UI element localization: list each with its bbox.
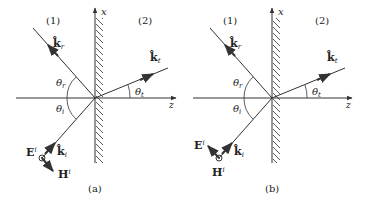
transmitted-k-arrow: [140, 74, 153, 80]
theta-r-arc: [244, 77, 253, 98]
panel-b: x z (1) (2) k̂r k̂t k̂i θr θi θt Hi Ei (…: [193, 6, 352, 194]
theta-t-arc: [305, 85, 307, 98]
z-axis-label: z: [345, 100, 351, 110]
theta-r-arc: [67, 77, 76, 98]
transmitted-k-arrow: [317, 74, 330, 80]
theta-i-label: θi: [56, 103, 64, 116]
k-r-label: k̂r: [52, 36, 64, 51]
transmitted-ray: [272, 68, 345, 98]
k-i-label: k̂i: [56, 144, 66, 159]
region-1-label: (1): [46, 15, 60, 26]
region-2-label: (2): [315, 15, 329, 26]
interface-hatching: [273, 18, 280, 163]
theta-i-arc: [67, 98, 76, 119]
theta-t-label: θt: [312, 86, 321, 99]
theta-i-arc: [244, 98, 253, 119]
H-label: Hi: [58, 168, 71, 181]
caption-b: (b): [265, 183, 279, 194]
incident-k-arrow: [222, 143, 232, 154]
x-axis-label: x: [101, 6, 107, 17]
reflection-refraction-diagram: x z (1) (2) k̂r k̂t k̂i θr θi θt Ei Hi (…: [0, 0, 365, 210]
h-field-arrow: [42, 158, 53, 171]
k-i-label: k̂i: [233, 144, 243, 159]
caption-a: (a): [88, 183, 102, 194]
k-t-label: k̂t: [326, 50, 337, 65]
x-axis-label: x: [278, 6, 284, 17]
transmitted-ray: [95, 68, 168, 98]
theta-t-label: θt: [135, 86, 144, 99]
E-label: Ei: [26, 146, 37, 159]
theta-r-label: θr: [56, 77, 66, 90]
theta-r-label: θr: [233, 77, 243, 90]
interface-hatching: [96, 18, 103, 163]
k-t-label: k̂t: [149, 50, 160, 65]
panel-a: x z (1) (2) k̂r k̂t k̂i θr θi θt Ei Hi (…: [16, 6, 176, 194]
e-field-arrow: [208, 146, 219, 158]
theta-t-arc: [128, 85, 130, 98]
H-label: Hi: [212, 166, 225, 179]
incident-k-arrow: [45, 143, 55, 154]
region-2-label: (2): [138, 15, 152, 26]
z-axis-label: z: [168, 100, 174, 110]
E-label: Ei: [194, 139, 205, 152]
k-r-label: k̂r: [229, 36, 241, 51]
region-1-label: (1): [223, 15, 237, 26]
theta-i-label: θi: [233, 103, 241, 116]
